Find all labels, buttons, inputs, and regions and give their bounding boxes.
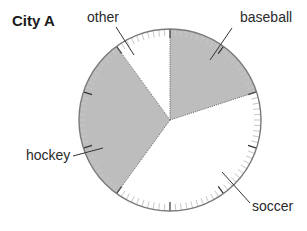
- slice-label-baseball: baseball: [240, 9, 292, 25]
- pie-chart: baseballsoccerhockeyother: [0, 0, 307, 231]
- slice-label-hockey: hockey: [26, 147, 70, 163]
- slice-label-other: other: [87, 9, 119, 25]
- slice-label-soccer: soccer: [252, 198, 294, 214]
